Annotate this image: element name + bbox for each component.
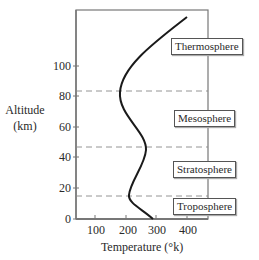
x-tick-labels: 100 200 300 400	[87, 223, 197, 237]
x-tick-label: 100	[87, 223, 105, 237]
y-axis-title-line2: (km)	[13, 119, 36, 133]
y-axis-title-line1: Altitude	[5, 103, 44, 117]
y-tick-label: 0	[65, 212, 71, 226]
label-mesosphere: Mesosphere	[174, 110, 235, 127]
x-tick-label: 300	[148, 223, 166, 237]
y-tick-label: 40	[59, 150, 71, 164]
y-tick-label: 100	[53, 59, 71, 73]
y-tick-label: 20	[59, 181, 71, 195]
x-axis-title: Temperature (°k)	[101, 240, 183, 254]
layer-boundaries	[76, 91, 208, 196]
x-tick-label: 400	[179, 223, 197, 237]
label-stratosphere: Stratosphere	[173, 161, 236, 178]
label-thermosphere: Thermosphere	[171, 38, 243, 55]
x-tick-label: 200	[119, 223, 137, 237]
y-tick-labels: 0 20 40 60 80 100	[53, 59, 71, 226]
y-tick-label: 60	[59, 120, 71, 134]
label-troposphere: Troposphere	[173, 198, 236, 215]
y-tick-label: 80	[59, 89, 71, 103]
